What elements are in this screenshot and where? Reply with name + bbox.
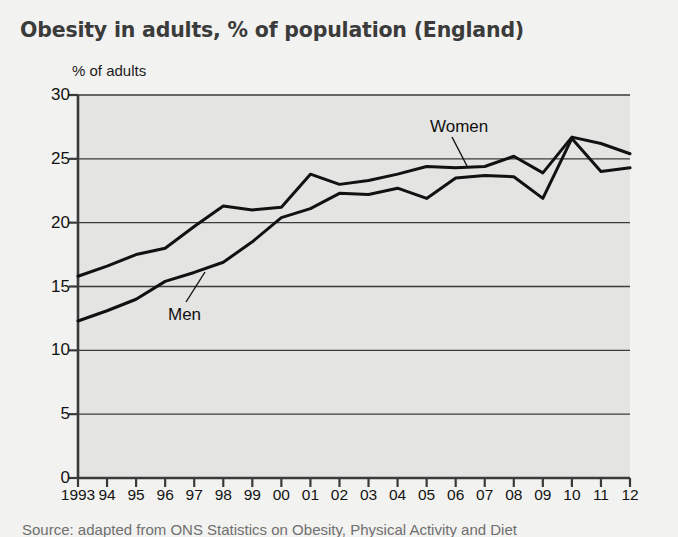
x-axis-tick-label: 04 [389,486,406,504]
x-axis-tick-label: 97 [186,486,203,504]
x-axis-tick-label: 98 [215,486,232,504]
series-label-men: Men [168,305,201,325]
x-axis-tick-label: 02 [331,486,348,504]
x-axis-tick-label: 06 [447,486,464,504]
y-axis-tick-label: 10 [26,340,70,360]
x-axis-tick-label: 05 [418,486,435,504]
x-axis-tick-label: 10 [563,486,580,504]
x-axis-tick-label: 95 [127,486,144,504]
x-axis-tick-label: 1993 [61,486,95,504]
annotation-leader-lines [186,137,467,302]
x-axis-tick-label: 96 [157,486,174,504]
y-axis-tick-label: 0 [26,468,70,488]
y-axis-ticks [69,95,78,478]
chart-container: % of adults 051015202530 199394959697989… [0,0,678,537]
x-axis-tick-label: 09 [534,486,551,504]
y-axis-tick-label: 30 [26,85,70,105]
chart-svg [0,0,678,537]
gridlines [78,95,630,478]
x-axis-tick-label: 00 [273,486,290,504]
y-axis-tick-label: 15 [26,277,70,297]
data-series [78,137,630,321]
x-axis-tick-label: 07 [476,486,493,504]
x-axis-tick-label: 03 [360,486,377,504]
y-axis-tick-label: 25 [26,149,70,169]
x-axis-tick-label: 08 [505,486,522,504]
source-note: Source: adapted from ONS Statistics on O… [22,521,517,537]
x-axis-tick-label: 12 [621,486,638,504]
series-label-women: Women [430,117,488,137]
x-axis-tick-label: 94 [98,486,115,504]
x-axis-tick-label: 99 [244,486,261,504]
x-axis-tick-label: 11 [593,486,609,504]
y-axis-tick-label: 5 [26,404,70,424]
x-axis-tick-label: 01 [302,486,319,504]
y-axis-tick-label: 20 [26,213,70,233]
